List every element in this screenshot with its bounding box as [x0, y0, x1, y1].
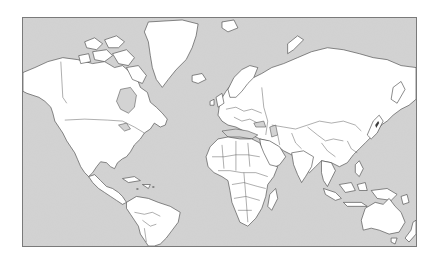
- world-map: World political outline map: [22, 17, 417, 247]
- world-map-svg: [23, 18, 416, 246]
